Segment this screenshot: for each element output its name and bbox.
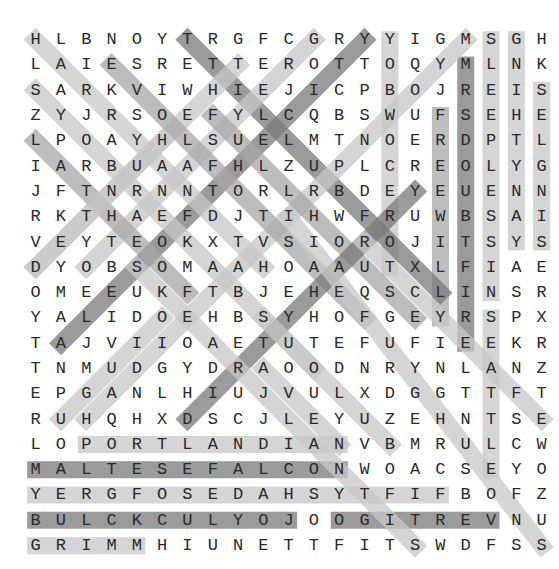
grid-letter[interactable]: F xyxy=(453,255,478,280)
grid-letter[interactable]: N xyxy=(504,356,529,381)
grid-letter[interactable]: Y xyxy=(428,52,453,77)
grid-letter[interactable]: N xyxy=(504,179,529,204)
grid-letter[interactable]: E xyxy=(124,229,149,254)
grid-letter[interactable]: M xyxy=(48,280,73,305)
grid-letter[interactable]: I xyxy=(428,229,453,254)
grid-letter[interactable]: N xyxy=(327,432,352,457)
grid-letter[interactable]: A xyxy=(48,52,73,77)
grid-letter[interactable]: A xyxy=(99,128,124,153)
grid-letter[interactable]: R xyxy=(352,229,377,254)
grid-letter[interactable]: O xyxy=(149,103,174,128)
grid-letter[interactable]: T xyxy=(478,381,503,406)
grid-letter[interactable]: H xyxy=(99,204,124,229)
grid-letter[interactable]: R xyxy=(23,204,48,229)
grid-letter[interactable]: S xyxy=(402,533,427,558)
grid-letter[interactable]: W xyxy=(428,533,453,558)
grid-letter[interactable]: R xyxy=(377,204,402,229)
grid-letter[interactable]: F xyxy=(504,482,529,507)
grid-letter[interactable]: A xyxy=(225,457,250,482)
grid-letter[interactable]: F xyxy=(478,533,503,558)
grid-letter[interactable]: R xyxy=(529,280,554,305)
grid-letter[interactable]: P xyxy=(74,432,99,457)
grid-letter[interactable]: O xyxy=(377,52,402,77)
grid-letter[interactable]: R xyxy=(99,103,124,128)
grid-letter[interactable]: B xyxy=(327,179,352,204)
grid-letter[interactable]: O xyxy=(74,255,99,280)
grid-letter[interactable]: M xyxy=(23,457,48,482)
grid-letter[interactable]: F xyxy=(352,331,377,356)
grid-letter[interactable]: E xyxy=(200,482,225,507)
grid-letter[interactable]: E xyxy=(453,508,478,533)
grid-letter[interactable]: A xyxy=(504,204,529,229)
grid-letter[interactable]: I xyxy=(74,52,99,77)
grid-letter[interactable]: R xyxy=(453,78,478,103)
grid-letter[interactable]: I xyxy=(428,331,453,356)
grid-letter[interactable]: I xyxy=(377,508,402,533)
grid-letter[interactable]: T xyxy=(352,482,377,507)
grid-letter[interactable]: A xyxy=(200,331,225,356)
grid-letter[interactable]: S xyxy=(478,204,503,229)
grid-letter[interactable]: T xyxy=(200,280,225,305)
grid-letter[interactable]: N xyxy=(504,52,529,77)
grid-letter[interactable]: U xyxy=(453,179,478,204)
grid-letter[interactable]: U xyxy=(402,204,427,229)
grid-letter[interactable]: X xyxy=(402,255,427,280)
grid-letter[interactable]: G xyxy=(529,153,554,178)
grid-letter[interactable]: U xyxy=(402,103,427,128)
grid-letter[interactable]: Y xyxy=(225,508,250,533)
grid-letter[interactable]: T xyxy=(453,229,478,254)
grid-letter[interactable]: E xyxy=(478,103,503,128)
grid-letter[interactable]: G xyxy=(377,305,402,330)
grid-letter[interactable]: S xyxy=(352,103,377,128)
grid-letter[interactable]: R xyxy=(48,533,73,558)
grid-letter[interactable]: Q xyxy=(352,280,377,305)
grid-letter[interactable]: G xyxy=(74,381,99,406)
grid-letter[interactable]: L xyxy=(453,356,478,381)
grid-letter[interactable]: T xyxy=(478,406,503,431)
grid-letter[interactable]: C xyxy=(149,508,174,533)
grid-letter[interactable]: J xyxy=(251,381,276,406)
grid-letter[interactable]: E xyxy=(428,179,453,204)
grid-letter[interactable]: I xyxy=(276,204,301,229)
grid-letter[interactable]: L xyxy=(529,128,554,153)
grid-letter[interactable]: L xyxy=(478,432,503,457)
grid-letter[interactable]: C xyxy=(276,457,301,482)
grid-letter[interactable]: I xyxy=(478,255,503,280)
grid-letter[interactable]: O xyxy=(529,457,554,482)
grid-letter[interactable]: Y xyxy=(402,179,427,204)
grid-letter[interactable]: A xyxy=(48,331,73,356)
grid-letter[interactable]: S xyxy=(124,255,149,280)
grid-letter[interactable]: O xyxy=(149,482,174,507)
grid-letter[interactable]: H xyxy=(276,482,301,507)
grid-letter[interactable]: Y xyxy=(504,229,529,254)
grid-letter[interactable]: Y xyxy=(504,153,529,178)
grid-letter[interactable]: I xyxy=(504,78,529,103)
grid-letter[interactable]: M xyxy=(99,533,124,558)
grid-letter[interactable]: O xyxy=(377,128,402,153)
grid-letter[interactable]: N xyxy=(99,179,124,204)
grid-letter[interactable]: E xyxy=(402,128,427,153)
grid-letter[interactable]: Y xyxy=(225,103,250,128)
grid-letter[interactable]: I xyxy=(352,533,377,558)
grid-letter[interactable]: O xyxy=(99,432,124,457)
grid-letter[interactable]: L xyxy=(74,457,99,482)
grid-letter[interactable]: C xyxy=(504,432,529,457)
grid-letter[interactable]: W xyxy=(327,204,352,229)
grid-letter[interactable]: K xyxy=(99,78,124,103)
grid-letter[interactable]: B xyxy=(225,305,250,330)
grid-letter[interactable]: O xyxy=(301,457,326,482)
grid-letter[interactable]: G xyxy=(301,27,326,52)
grid-letter[interactable]: O xyxy=(276,255,301,280)
grid-letter[interactable]: E xyxy=(276,280,301,305)
grid-letter[interactable]: T xyxy=(504,128,529,153)
grid-letter[interactable]: J xyxy=(74,331,99,356)
grid-letter[interactable]: N xyxy=(428,356,453,381)
grid-letter[interactable]: S xyxy=(478,27,503,52)
grid-letter[interactable]: R xyxy=(377,356,402,381)
grid-letter[interactable]: Q xyxy=(402,52,427,77)
grid-letter[interactable]: O xyxy=(377,229,402,254)
grid-letter[interactable]: R xyxy=(428,128,453,153)
grid-letter[interactable]: T xyxy=(529,381,554,406)
grid-letter[interactable]: O xyxy=(225,179,250,204)
grid-letter[interactable]: F xyxy=(428,482,453,507)
